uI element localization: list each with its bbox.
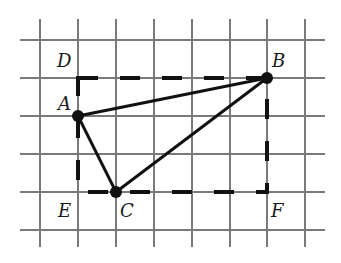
label-c: C xyxy=(120,200,134,221)
label-e: E xyxy=(57,200,71,221)
point-a xyxy=(72,110,84,122)
label-d: D xyxy=(56,50,72,71)
labels: D B A E C F xyxy=(56,50,285,221)
label-b: B xyxy=(271,50,285,71)
geometry-diagram: D B A E C F xyxy=(0,0,341,263)
point-b xyxy=(261,72,273,84)
label-f: F xyxy=(270,200,285,221)
label-a: A xyxy=(56,93,71,114)
point-c xyxy=(110,186,122,198)
points xyxy=(72,72,273,198)
edge-ab xyxy=(78,78,267,116)
triangle-abc xyxy=(78,78,267,192)
